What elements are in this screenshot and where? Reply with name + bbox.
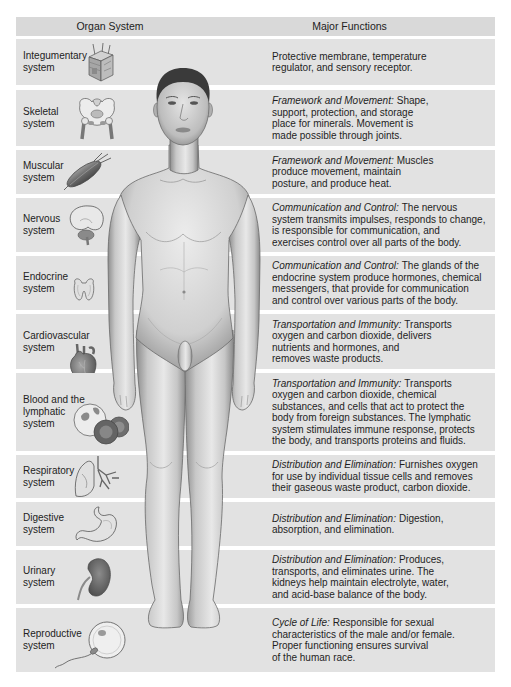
desc-line: the body, and transports proteins and fl… <box>272 435 493 447</box>
desc-line: kidneys help maintain electrolyte, water… <box>272 577 493 589</box>
desc-line: endocrine system produce hormones, chemi… <box>272 272 493 284</box>
desc-line: Distribution and Elimination:Produces, <box>272 554 493 566</box>
desc-line: produce movement, maintain <box>272 166 493 178</box>
function-description: Distribution and Elimination:Digestion, … <box>272 502 493 546</box>
function-description: Cycle of Life:Responsible for sexual cha… <box>272 608 493 672</box>
desc-line: transports, and eliminates urine. The <box>272 566 493 578</box>
desc-line: Protective membrane, temperature <box>272 51 493 63</box>
organ-label: Integumentary system <box>23 39 87 85</box>
label-line: Nervous <box>23 213 60 225</box>
desc-line: Transportation and Immunity:Transports <box>272 378 493 390</box>
desc-line: system stimulates immune response, prote… <box>272 424 493 436</box>
pelvis-bone-icon <box>76 96 118 140</box>
function-category: Distribution and Elimination: <box>272 513 396 524</box>
desc-line: Cycle of Life:Responsible for sexual <box>272 617 493 629</box>
organ-label: Skeletal system <box>23 90 59 146</box>
desc-line: oxygen and carbon dioxide, delivers <box>272 330 493 342</box>
stomach-icon <box>73 505 119 545</box>
desc-line: oxygen and carbon dioxide, chemical <box>272 389 493 401</box>
function-category: Framework and Movement: <box>272 155 394 166</box>
desc-text: Transports <box>404 378 451 389</box>
label-line: system <box>23 118 59 130</box>
desc-line: Communication and Control:The glands of … <box>272 260 493 272</box>
label-line: system <box>23 62 87 74</box>
skin-cube-icon <box>87 43 115 83</box>
label-line: Endocrine <box>23 271 68 283</box>
table-header: Organ System Major Functions <box>16 17 495 36</box>
desc-line: for use by individual tissue cells and r… <box>272 471 493 483</box>
desc-line: Communication and Control:The nervous <box>272 202 493 214</box>
function-description: Framework and Movement:Muscles produce m… <box>272 150 493 194</box>
label-line: Cardiovascular <box>23 330 90 342</box>
label-line: Digestive <box>23 512 64 524</box>
kidney-icon <box>76 555 114 601</box>
organ-label: Respiratory system <box>23 455 74 498</box>
organ-systems-table: Organ System Major Functions Integumenta… <box>0 0 511 687</box>
desc-text: The glands of the <box>402 260 479 271</box>
label-line: Integumentary <box>23 50 87 62</box>
desc-line: their gaseous waste product, carbon diox… <box>272 482 493 494</box>
desc-line: and control over various parts of the bo… <box>272 295 493 307</box>
function-description: Framework and Movement:Shape, support, p… <box>272 90 493 146</box>
function-description: Distribution and Elimination:Produces, t… <box>272 550 493 604</box>
table-row-endocrine: Endocrine system Communication and Contr… <box>16 256 495 310</box>
function-description: Protective membrane, temperature regulat… <box>272 39 493 85</box>
table-row-urinary: Urinary system Distribution and Eliminat… <box>16 550 495 604</box>
desc-line: support, protection, and storage <box>272 107 493 119</box>
desc-text: Muscles <box>397 155 434 166</box>
table-row-blood-lymphatic: Blood and the lymphatic system Transport… <box>16 373 495 451</box>
function-category: Communication and Control: <box>272 202 399 213</box>
table-row-reproductive: Reproductive system Cycle of Life:Respon… <box>16 608 495 672</box>
function-category: Transportation and Immunity: <box>272 319 401 330</box>
desc-text: Responsible for sexual <box>333 617 434 628</box>
function-category: Distribution and Elimination: <box>272 554 396 565</box>
desc-line: regulator, and sensory receptor. <box>272 62 493 74</box>
desc-text: Furnishes oxygen <box>399 459 478 470</box>
label-line: Respiratory <box>23 465 74 477</box>
lungs-icon <box>72 456 122 498</box>
label-line: system <box>23 225 60 237</box>
organ-label: Urinary system <box>23 550 55 604</box>
label-line: Urinary <box>23 565 55 577</box>
label-line: Skeletal <box>23 106 59 118</box>
function-description: Distribution and Elimination:Furnishes o… <box>272 455 493 498</box>
label-line: system <box>23 283 68 295</box>
blood-cells-icon <box>73 400 129 446</box>
desc-line: Distribution and Elimination:Furnishes o… <box>272 459 493 471</box>
desc-text: Transports <box>404 319 451 330</box>
desc-line: exercises control over all parts of the … <box>272 237 493 249</box>
table-row-respiratory: Respiratory system Distribution and Elim… <box>16 455 495 498</box>
desc-line: substances, and cells that act to protec… <box>272 401 493 413</box>
egg-and-sperm-icon <box>55 621 127 669</box>
desc-line: messengers, that provide for communicati… <box>272 283 493 295</box>
desc-line: absorption, and elimination. <box>272 524 493 536</box>
column-header-major-functions: Major Functions <box>204 17 495 36</box>
function-category: Transportation and Immunity: <box>272 378 401 389</box>
thyroid-gland-icon <box>72 277 96 303</box>
organ-label: Digestive system <box>23 502 64 546</box>
desc-line: Distribution and Elimination:Digestion, <box>272 513 493 525</box>
function-description: Transportation and Immunity:Transports o… <box>272 314 493 369</box>
table-row-digestive: Digestive system Distribution and Elimin… <box>16 502 495 546</box>
label-line: system <box>23 477 74 489</box>
desc-line: of the human race. <box>272 652 493 664</box>
desc-line: body from foreign substances. The lympha… <box>272 412 493 424</box>
function-description: Transportation and Immunity:Transports o… <box>272 373 493 451</box>
desc-line: Framework and Movement:Shape, <box>272 95 493 107</box>
label-line: system <box>23 577 55 589</box>
label-line: system <box>23 524 64 536</box>
function-category: Communication and Control: <box>272 260 399 271</box>
desc-line: is responsible for communication, and <box>272 225 493 237</box>
table-row-nervous: Nervous system Communication and Control… <box>16 198 495 252</box>
desc-line: place for minerals. Movement is <box>272 118 493 130</box>
desc-text: Protective membrane, temperature <box>272 51 427 62</box>
desc-line: Proper functioning ensures survival <box>272 640 493 652</box>
desc-line: posture, and produce heat. <box>272 178 493 190</box>
desc-line: Transportation and Immunity:Transports <box>272 319 493 331</box>
table-row-skeletal: Skeletal system Framework and Movement:S… <box>16 90 495 146</box>
desc-text: The nervous <box>402 202 458 213</box>
desc-text: Shape, <box>397 95 429 106</box>
desc-text: Digestion, <box>399 513 443 524</box>
desc-line: and acid-base balance of the body. <box>272 589 493 601</box>
table-row-integumentary: Integumentary system Protective membrane… <box>16 39 495 85</box>
